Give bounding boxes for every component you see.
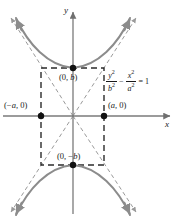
first-denominator-exp: 2: [112, 82, 115, 88]
top-vertex-label-prefix: (0,: [59, 72, 70, 82]
upper-branch-left-arrow: [16, 19, 22, 31]
right-vertex-label: (a, 0): [108, 101, 126, 110]
bottom-vertex-label: (0, −b): [57, 152, 80, 161]
hyperbola-equation: y2 b2 − x2 a2 = 1: [106, 69, 149, 93]
second-fraction-denominator: a2: [126, 82, 137, 94]
equation-operator: −: [119, 77, 124, 86]
equation-equals: = 1: [139, 77, 150, 86]
first-numerator-exp: 2: [112, 69, 115, 75]
x-axis-label: x: [165, 120, 169, 129]
left-vertex-label-prefix: (−: [4, 100, 12, 110]
point-left-vertex: [38, 113, 44, 119]
second-fraction-numerator: x2: [126, 69, 137, 82]
second-denominator-exp: 2: [132, 82, 135, 88]
point-bottom-vertex: [70, 162, 76, 168]
point-right-vertex: [101, 113, 107, 119]
first-fraction-numerator: y2: [106, 69, 117, 82]
y-axis-label: y: [64, 6, 68, 15]
upper-branch-right-arrow: [124, 19, 130, 31]
right-vertex-label-suffix: , 0): [115, 100, 126, 110]
bottom-vertex-label-prefix: (0, −: [57, 151, 73, 161]
lower-branch-right-arrow: [124, 202, 130, 214]
point-top-vertex: [70, 65, 76, 71]
left-vertex-label-suffix: , 0): [16, 100, 27, 110]
top-vertex-label-suffix: ): [75, 72, 78, 82]
hyperbola-figure: y x (0, b) (0, −b) (−a, 0) (a, 0) y2 b2 …: [0, 0, 177, 223]
top-vertex-label: (0, b): [59, 73, 77, 82]
first-fraction-denominator: b2: [106, 82, 117, 94]
figure-canvas: [0, 0, 177, 223]
first-fraction: y2 b2: [106, 69, 117, 93]
bottom-vertex-label-suffix: ): [77, 151, 80, 161]
second-fraction: x2 a2: [126, 69, 137, 93]
left-vertex-label: (−a, 0): [4, 101, 27, 110]
lower-branch-left-arrow: [16, 202, 22, 214]
asymptote-positive-lower: [11, 116, 73, 212]
second-numerator-exp: 2: [131, 69, 134, 75]
